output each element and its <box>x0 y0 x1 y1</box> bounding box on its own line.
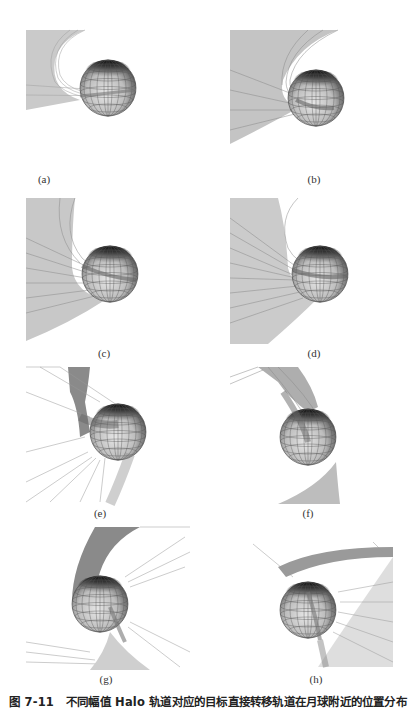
panel-b: (b) <box>208 0 416 190</box>
panel-label-c: (c) <box>84 347 124 359</box>
trajectory-plot-e <box>0 362 208 507</box>
panel-c: (c) <box>0 198 208 363</box>
panel-e: (e) <box>0 362 208 522</box>
trajectory-plot-d <box>208 198 416 348</box>
figure-title: 不同幅值 Halo 轨道对应的目标直接转移轨道在月球附近的位置分布 <box>66 695 407 709</box>
panel-h: (h) <box>208 522 416 692</box>
trajectory-plot-a <box>0 0 208 170</box>
trajectory-plot-g <box>0 522 208 672</box>
trajectory-plot-b <box>208 0 416 170</box>
trajectory-plot-h <box>208 522 416 672</box>
panel-d: (d) <box>208 198 416 363</box>
figure-caption: 图 7-11不同幅值 Halo 轨道对应的目标直接转移轨道在月球附近的位置分布 <box>0 693 416 709</box>
panel-label-b: (b) <box>294 173 334 185</box>
trajectory-plot-f <box>208 362 416 507</box>
panel-a: (a) <box>0 0 208 190</box>
panel-label-f: (f) <box>288 507 328 519</box>
panel-label-d: (d) <box>294 347 334 359</box>
trajectory-plot-c <box>0 198 208 348</box>
panel-label-h: (h) <box>296 673 336 685</box>
figure-number: 图 7-11 <box>9 695 54 709</box>
panel-g: (g) <box>0 522 208 692</box>
panel-label-e: (e) <box>80 507 120 519</box>
panel-f: (f) <box>208 362 416 522</box>
panel-label-a: (a) <box>24 173 64 185</box>
panel-label-g: (g) <box>86 673 126 685</box>
